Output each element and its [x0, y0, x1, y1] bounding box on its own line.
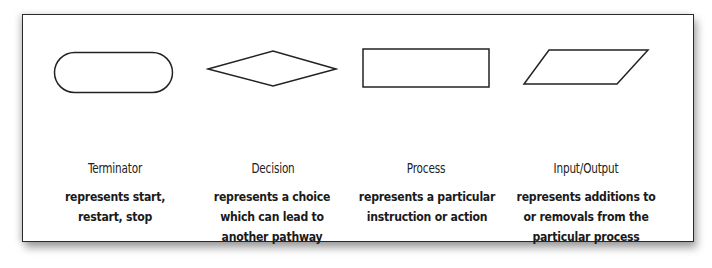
- process-description: represents a particular instruction or a…: [356, 187, 499, 227]
- decision-diamond-icon: [206, 49, 338, 89]
- terminator-description: represents start, restart, stop: [44, 187, 187, 227]
- input-output-parallelogram-icon: [522, 48, 650, 86]
- decision-title: Decision: [204, 160, 342, 176]
- terminator-shape-icon: [53, 51, 175, 95]
- input-output-title: Input/Output: [517, 160, 655, 176]
- decision-description: represents a choice which can lead to an…: [201, 187, 344, 247]
- process-title: Process: [357, 160, 495, 176]
- input-output-description: represents additions to or removals from…: [515, 187, 658, 247]
- process-rectangle-icon: [362, 48, 490, 90]
- terminator-title: Terminator: [46, 160, 184, 176]
- flowchart-legend-panel: Terminator represents start, restart, st…: [22, 14, 694, 242]
